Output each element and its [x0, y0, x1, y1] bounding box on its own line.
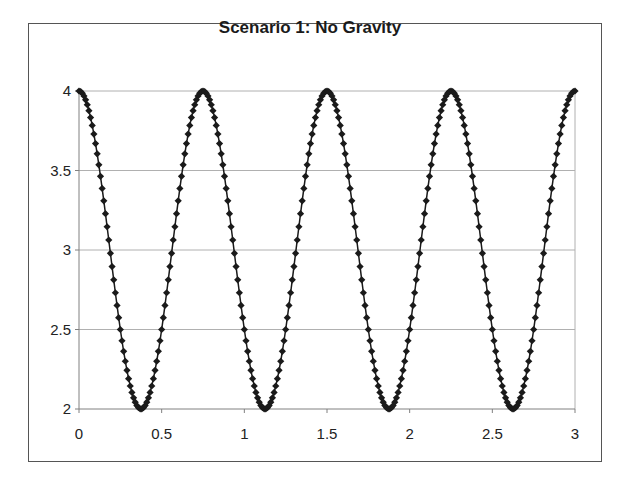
diamond-marker — [361, 302, 368, 309]
diamond-marker — [469, 173, 476, 180]
diamond-marker — [92, 140, 99, 147]
x-tick-label: 2 — [405, 425, 413, 442]
diamond-marker — [173, 210, 180, 217]
diamond-marker — [396, 382, 403, 389]
diamond-marker — [249, 375, 256, 382]
diamond-marker — [312, 114, 319, 121]
diamond-marker — [155, 348, 162, 355]
diamond-marker — [360, 289, 367, 296]
diamond-marker — [437, 107, 444, 114]
diamond-marker — [433, 130, 440, 137]
diamond-marker — [229, 236, 236, 243]
diamond-marker — [350, 210, 357, 217]
diamond-marker — [495, 367, 502, 374]
diamond-marker — [110, 276, 117, 283]
diamond-marker — [557, 130, 564, 137]
diamond-marker — [216, 140, 223, 147]
diamond-marker — [166, 263, 173, 270]
diamond-marker — [413, 276, 420, 283]
diamond-marker — [247, 367, 254, 374]
diamond-marker — [366, 337, 373, 344]
diamond-marker — [270, 389, 277, 396]
diamond-marker — [370, 358, 377, 365]
diamond-marker — [479, 250, 486, 257]
diamond-marker — [482, 276, 489, 283]
diamond-marker — [297, 210, 304, 217]
y-tick-label: 3 — [63, 241, 71, 258]
diamond-marker — [231, 250, 238, 257]
diamond-marker — [467, 161, 474, 168]
diamond-marker — [128, 389, 135, 396]
diamond-marker — [545, 210, 552, 217]
diamond-marker — [302, 173, 309, 180]
diamond-marker — [480, 263, 487, 270]
diamond-marker — [365, 326, 372, 333]
diamond-marker — [518, 389, 525, 396]
diamond-marker — [211, 114, 218, 121]
diamond-marker — [305, 150, 312, 157]
diamond-marker — [540, 250, 547, 257]
diamond-marker — [279, 348, 286, 355]
diamond-marker — [424, 185, 431, 192]
diamond-marker — [431, 140, 438, 147]
diamond-marker — [342, 150, 349, 157]
diamond-marker — [241, 326, 248, 333]
diamond-marker — [484, 289, 491, 296]
diamond-marker — [461, 122, 468, 129]
diamond-marker — [165, 276, 172, 283]
diamond-marker — [113, 302, 120, 309]
diamond-marker — [335, 114, 342, 121]
diamond-marker — [168, 250, 175, 257]
diamond-marker — [457, 107, 464, 114]
diamond-marker — [285, 302, 292, 309]
diamond-marker — [209, 107, 216, 114]
diamond-marker — [363, 314, 370, 321]
diamond-marker — [108, 263, 115, 270]
diamond-marker — [310, 122, 317, 129]
diamond-marker — [226, 210, 233, 217]
y-tick-label: 2.5 — [50, 321, 71, 338]
diamond-marker — [115, 314, 122, 321]
diamond-marker — [552, 161, 559, 168]
x-tick-label: 1 — [240, 425, 248, 442]
diamond-marker — [401, 358, 408, 365]
diamond-marker — [186, 122, 193, 129]
diamond-marker — [414, 263, 421, 270]
y-tick-label: 4 — [63, 82, 71, 99]
diamond-marker — [375, 382, 382, 389]
diamond-marker — [409, 302, 416, 309]
diamond-marker — [547, 197, 554, 204]
diamond-marker — [275, 367, 282, 374]
diamond-marker — [153, 358, 160, 365]
diamond-marker — [287, 289, 294, 296]
diamond-marker — [333, 107, 340, 114]
x-tick-label: 1.5 — [317, 425, 338, 442]
diamond-marker — [560, 114, 567, 121]
axes — [75, 91, 575, 413]
diamond-marker — [251, 382, 258, 389]
diamond-marker — [533, 302, 540, 309]
x-tick-label: 0 — [75, 425, 83, 442]
diamond-marker — [558, 122, 565, 129]
diamond-marker — [175, 197, 182, 204]
diamond-marker — [548, 185, 555, 192]
diamond-marker — [459, 114, 466, 121]
diamond-marker — [218, 150, 225, 157]
diamond-marker — [244, 348, 251, 355]
diamond-marker — [95, 161, 102, 168]
x-axis-tick-labels: 00.511.522.53 — [75, 425, 579, 442]
diamond-marker — [100, 197, 107, 204]
diamond-marker — [292, 250, 299, 257]
diamond-marker — [543, 223, 550, 230]
diamond-marker — [239, 314, 246, 321]
diamond-marker — [406, 326, 413, 333]
diamond-marker — [127, 382, 134, 389]
diamond-marker — [163, 289, 170, 296]
diamond-marker — [181, 150, 188, 157]
diamond-marker — [272, 382, 279, 389]
diamond-marker — [403, 348, 410, 355]
diamond-marker — [313, 107, 320, 114]
diamond-marker — [472, 197, 479, 204]
diamond-marker — [428, 161, 435, 168]
diamond-marker — [535, 289, 542, 296]
